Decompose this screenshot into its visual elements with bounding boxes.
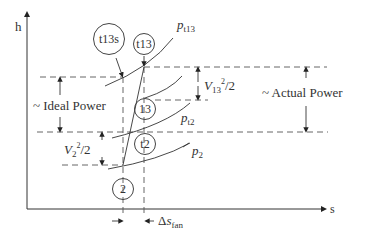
state-2: 2 <box>112 178 134 200</box>
v2-label: V22/2 <box>64 142 91 159</box>
state-13: 13 <box>134 98 156 120</box>
state-t2: t2 <box>134 133 156 155</box>
isobar-label-pt2: pt2 <box>181 111 195 127</box>
state-t13: t13 <box>133 33 155 55</box>
isobar-13 <box>145 76 182 98</box>
delta-s-fan-label: Δsfan <box>158 214 183 230</box>
isobar-p2b <box>183 143 189 147</box>
state-t13s: t13s <box>93 23 125 55</box>
isobar-label-pt13: pt13 <box>177 18 195 34</box>
y-axis-label: h <box>15 20 22 33</box>
actual-power-label: ~ Actual Power <box>262 86 343 99</box>
x-axis-label: s <box>330 203 335 215</box>
ideal-power-label: ~ Ideal Power <box>33 99 106 112</box>
isobar-label-p2: p2 <box>192 144 203 160</box>
v13-label: V132/2 <box>204 78 235 95</box>
